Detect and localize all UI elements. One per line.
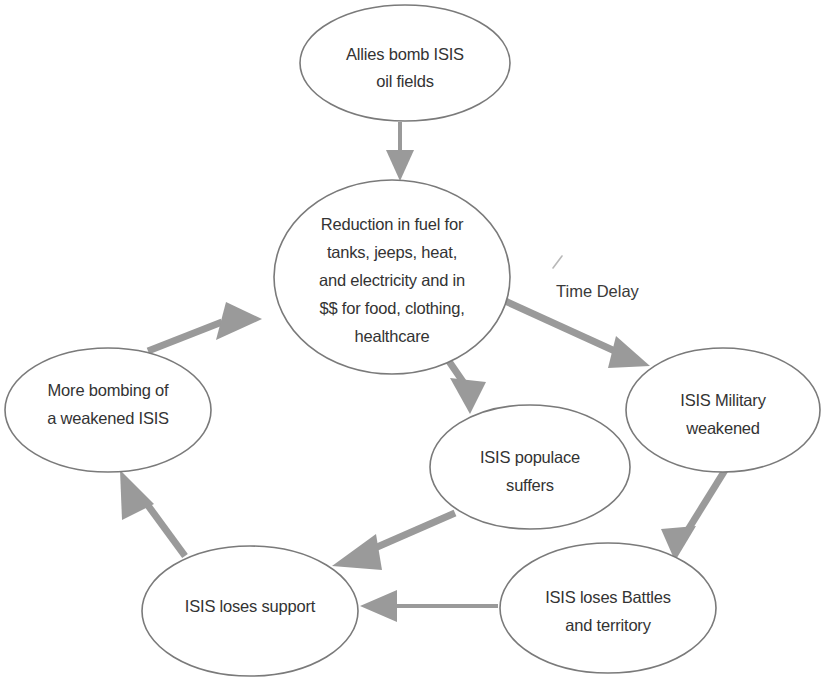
edge-reduction-to-military (503, 300, 650, 368)
edge-support-to-more-bombing (120, 470, 185, 556)
node-shape[interactable] (626, 348, 820, 472)
node-label-line: ISIS loses support (185, 597, 316, 615)
edge-shaft (368, 513, 455, 551)
arrowhead-icon (450, 378, 486, 414)
node-isis-loses-battles[interactable]: ISIS loses Battles and territory (500, 543, 716, 673)
edge-battles-to-support (360, 590, 498, 622)
node-shape[interactable] (430, 405, 630, 529)
node-label-line: and territory (565, 616, 651, 634)
node-label-line: tanks, jeeps, heat, (327, 243, 457, 261)
edge-reduction-to-populace (446, 357, 486, 414)
edge-bomb-to-reduction (386, 122, 414, 181)
node-label-line: ISIS loses Battles (545, 588, 671, 606)
scan-artifact-mark (553, 256, 562, 268)
node-label-line: ISIS populace (480, 448, 580, 466)
arrowhead-icon (608, 336, 650, 368)
arrowhead-icon (216, 302, 262, 340)
edge-military-to-battles (661, 467, 727, 561)
edge-label-time-delay: Time Delay (556, 282, 640, 300)
node-label-line: and electricity and in (319, 271, 465, 289)
node-label-line: healthcare (354, 327, 429, 345)
arrowhead-icon (332, 534, 382, 570)
node-label-line: Allies bomb ISIS (346, 45, 464, 63)
edge-more-bombing-to-reduction (148, 302, 262, 351)
edge-populace-to-support (332, 513, 455, 570)
edge-shaft (686, 467, 727, 533)
arrowhead-icon (360, 590, 397, 622)
edge-shaft (503, 300, 628, 357)
node-label-line: suffers (506, 476, 554, 494)
node-label-line: $$ for food, clothing, (319, 299, 464, 317)
node-reduction-in-fuel[interactable]: Reduction in fuel for tanks, jeeps, heat… (274, 180, 510, 374)
edge-shaft (148, 322, 222, 351)
node-label-line: More bombing of (48, 381, 169, 399)
node-allies-bomb[interactable]: Allies bomb ISIS oil fields (300, 5, 510, 121)
node-isis-loses-support[interactable]: ISIS loses support (142, 546, 358, 676)
node-label-line: oil fields (376, 72, 434, 90)
node-label-line: a weakened ISIS (47, 409, 169, 427)
node-isis-populace-suffers[interactable]: ISIS populace suffers (430, 405, 630, 529)
node-label-line: Reduction in fuel for (321, 215, 464, 233)
node-label-line: weakened (685, 419, 760, 437)
node-shape[interactable] (500, 543, 716, 673)
arrowhead-icon (386, 150, 414, 181)
node-more-bombing[interactable]: More bombing of a weakened ISIS (5, 348, 211, 472)
edge-shaft (144, 500, 185, 556)
diagram-canvas: Allies bomb ISIS oil fields Reduction in… (0, 0, 827, 681)
node-label-line: ISIS Military (680, 391, 766, 409)
node-isis-military-weakened[interactable]: ISIS Military weakened (626, 348, 820, 472)
causal-loop-diagram: Allies bomb ISIS oil fields Reduction in… (0, 0, 827, 681)
